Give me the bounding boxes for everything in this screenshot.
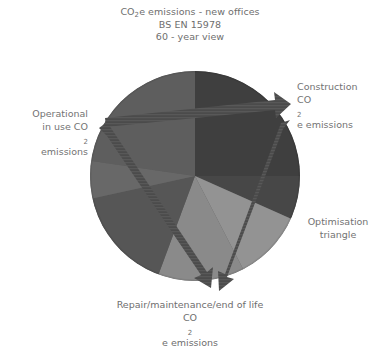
label-operational-in-use: Operational in use CO2 emissions	[4, 108, 88, 158]
label-construction-line-1: Construction	[297, 81, 377, 94]
caption-line-1: Repair/maintenance/end of life	[72, 299, 308, 312]
label-repair-maintenance: Repair/maintenance/end of life CO2e emis…	[72, 299, 308, 349]
subscript-2: 2	[297, 111, 301, 119]
label-optimisation-line-2: triangle	[300, 229, 376, 242]
label-construction-line-2: CO2e emissions	[297, 94, 377, 132]
subscript-2: 2	[188, 329, 192, 337]
label-operational-line-1: Operational	[4, 108, 88, 121]
label-optimisation-line-1: Optimisation	[300, 216, 376, 229]
label-optimisation-triangle: Optimisation triangle	[300, 216, 376, 241]
subscript-2: 2	[84, 138, 88, 146]
label-construction: Construction CO2e emissions	[297, 81, 377, 131]
caption-line-2: CO2e emissions	[72, 312, 308, 349]
label-operational-line-3: emissions	[4, 146, 88, 159]
label-operational-line-2: in use CO2	[4, 121, 88, 146]
